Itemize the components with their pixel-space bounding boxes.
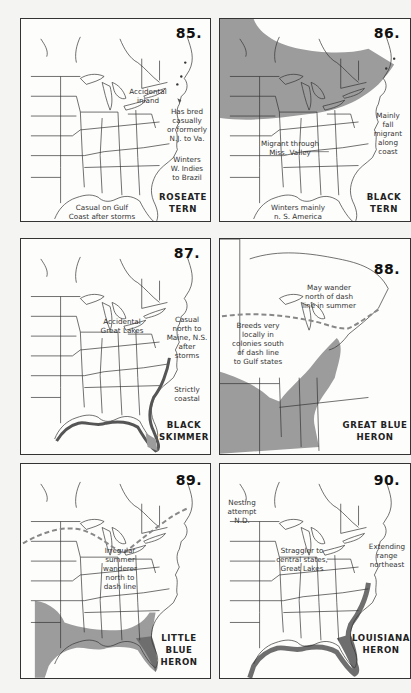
- note-may-wander: May wander north of dash line in summer: [296, 283, 362, 310]
- note-breeds-locally: Breeds very locally in colonies south of…: [224, 321, 292, 366]
- note-fall-migrant: Mainly fall migrant along coast: [364, 111, 411, 156]
- coastal-range-line: [57, 358, 170, 451]
- note-accidental-inland: Accidental inland: [118, 87, 178, 105]
- map-panel-87: 87. Accidental Great Lakes Casual north …: [20, 238, 211, 455]
- note-casual-gulf: Casual on Gulf Coast after storms: [57, 203, 147, 221]
- note-straggler: Straggler to central states, Great Lakes: [270, 546, 334, 573]
- panel-number: 88.: [374, 261, 400, 277]
- note-irregular-wanderer: Irregular summer wanderer north to dash …: [95, 546, 145, 591]
- note-nesting-attempt: Nesting attempt N.D.: [222, 498, 262, 525]
- species-label: BLACK TERN: [358, 191, 410, 215]
- map-panel-89: 89. Irregular summer wanderer north to d…: [20, 463, 211, 679]
- panel-number: 90.: [374, 472, 400, 488]
- note-extending-range: Extending range northeast: [362, 542, 411, 569]
- panel-number: 86.: [374, 25, 400, 41]
- map-panel-86: 86. Mainly fall migrant along coast Migr…: [219, 18, 411, 222]
- note-casual-north: Casual north to Maine, N.S. after storms: [161, 315, 211, 360]
- species-label: BLACK SKIMMER: [157, 419, 211, 443]
- note-migrant-miss-valley: Migrant through Miss. Valley: [250, 139, 330, 157]
- map-panel-90: 90. Nesting attempt N.D. Straggler to ce…: [219, 463, 411, 679]
- note-bred-casually: Has bred casually or formerly N.J. to Va…: [159, 107, 211, 143]
- panel-number: 85.: [176, 25, 202, 41]
- species-label: LOUISIANA HERON: [352, 632, 410, 656]
- note-winters: Winters mainly n. S. America: [258, 203, 338, 221]
- panel-number: 87.: [174, 245, 200, 261]
- note-strictly-coastal: Strictly coastal: [165, 385, 209, 403]
- map-panel-88: 88. May wander north of dash line in sum…: [219, 238, 411, 455]
- note-accidental-great-lakes: Accidental Great Lakes: [91, 317, 153, 335]
- note-winters: Winters W. Indies to Brazil: [163, 155, 211, 182]
- species-label: LITTLE BLUE HERON: [147, 632, 211, 668]
- species-label: GREAT BLUE HERON: [340, 419, 410, 443]
- species-label: ROSEATE TERN: [155, 191, 211, 215]
- map-panel-85: 85. Accidental inland Has bred casually …: [20, 18, 211, 222]
- panel-number: 89.: [176, 472, 202, 488]
